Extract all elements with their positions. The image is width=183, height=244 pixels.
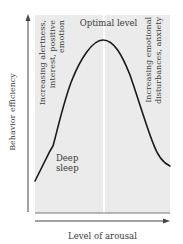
deep-sleep-label: Deep sleep [56, 153, 86, 173]
left-region-line-3: emotion [57, 20, 67, 155]
x-axis-label: Level of arousal [35, 232, 170, 241]
left-region-line-1: Increasing alertness, [38, 20, 48, 155]
deep-sleep-line-2: sleep [56, 163, 86, 173]
deep-sleep-line-1: Deep [56, 153, 86, 163]
right-region-label: Increasing emotional disturbances, anxie… [144, 17, 163, 152]
y-axis-label: Behavior efficiency [8, 42, 17, 182]
arousal-performance-diagram: Optimal level Behavior efficiency Increa… [0, 0, 183, 244]
right-region-line-1: Increasing emotional [144, 17, 154, 152]
left-region-label: Increasing alertness, interest, positive… [38, 20, 67, 155]
x-axis-arrow-icon [163, 219, 170, 224]
right-region-line-2: disturbances, anxiety [154, 17, 164, 152]
left-region-line-2: interest, positive [48, 20, 58, 155]
